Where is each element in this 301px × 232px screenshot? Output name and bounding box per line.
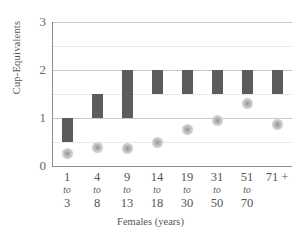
data-point-marker <box>272 119 283 130</box>
x-tick-range-start: 19 <box>170 170 204 185</box>
data-point-marker <box>122 143 133 154</box>
x-tick-label: 9to13 <box>110 170 144 211</box>
y-tick-label-0: 0 <box>26 159 46 172</box>
x-tick-label: 1to3 <box>50 170 84 211</box>
x-axis-tick-labels: 1to34to89to1314to1819to3031to5051to7071 … <box>52 170 292 215</box>
plot-area <box>52 22 292 166</box>
x-tick-label: 14to18 <box>140 170 174 211</box>
x-tick-range-connector: to <box>110 185 144 196</box>
range-bar <box>272 70 283 94</box>
gridline-minor-0_5 <box>52 142 292 143</box>
gridline-minor-2_5 <box>52 46 292 47</box>
x-tick-range-end: 13 <box>110 196 144 211</box>
gridline-3 <box>52 22 292 23</box>
gridline-1 <box>52 118 292 119</box>
x-tick-label: 31to50 <box>200 170 234 211</box>
x-tick-range-start: 9 <box>110 170 144 185</box>
x-tick-range-connector: to <box>80 185 114 196</box>
x-tick-range-end: 30 <box>170 196 204 211</box>
x-tick-range-connector: to <box>230 185 264 196</box>
range-bar <box>242 70 253 94</box>
data-point-marker <box>212 115 223 126</box>
range-bar <box>62 118 73 142</box>
data-point-marker <box>62 148 73 159</box>
x-tick-label: 19to30 <box>170 170 204 211</box>
x-tick-range-connector: to <box>200 185 234 196</box>
x-tick-range-connector: to <box>140 185 174 196</box>
x-tick-range-end: 70 <box>230 196 264 211</box>
x-axis-title: Females (years) <box>0 216 301 227</box>
x-tick-range-start: 31 <box>200 170 234 185</box>
data-point-marker <box>182 124 193 135</box>
y-tick-label-1: 1 <box>26 111 46 124</box>
x-tick-range-connector: to <box>170 185 204 196</box>
x-tick-range-end: 8 <box>80 196 114 211</box>
x-tick-range-end: 3 <box>50 196 84 211</box>
x-tick-range-connector: to <box>50 185 84 196</box>
gridline-2 <box>52 70 292 71</box>
x-tick-label: 71 + <box>260 170 294 185</box>
x-tick-range-start: 14 <box>140 170 174 185</box>
gridline-minor-1_5 <box>52 94 292 95</box>
data-point-marker <box>152 137 163 148</box>
y-tick-label-2: 2 <box>26 63 46 76</box>
range-bar <box>92 94 103 118</box>
x-axis-line <box>52 166 292 167</box>
x-tick-range-end: 18 <box>140 196 174 211</box>
x-tick-range-start: 51 <box>230 170 264 185</box>
x-tick-label: 4to8 <box>80 170 114 211</box>
range-bar <box>122 70 133 118</box>
y-tick-label-3: 3 <box>26 15 46 28</box>
range-bar <box>212 70 223 94</box>
x-tick-range-end: 50 <box>200 196 234 211</box>
y-axis-line <box>52 22 53 166</box>
x-tick-range-start: 4 <box>80 170 114 185</box>
range-bar <box>152 70 163 94</box>
chart-container: Cup-Equivalents 3 2 1 0 1to34to89to1314t… <box>0 0 301 232</box>
x-tick-range-start: 1 <box>50 170 84 185</box>
range-bar <box>182 70 193 94</box>
x-tick-label: 51to70 <box>230 170 264 211</box>
y-axis-title: Cup-Equivalents <box>11 0 22 118</box>
data-point-marker <box>242 98 253 109</box>
data-point-marker <box>92 142 103 153</box>
